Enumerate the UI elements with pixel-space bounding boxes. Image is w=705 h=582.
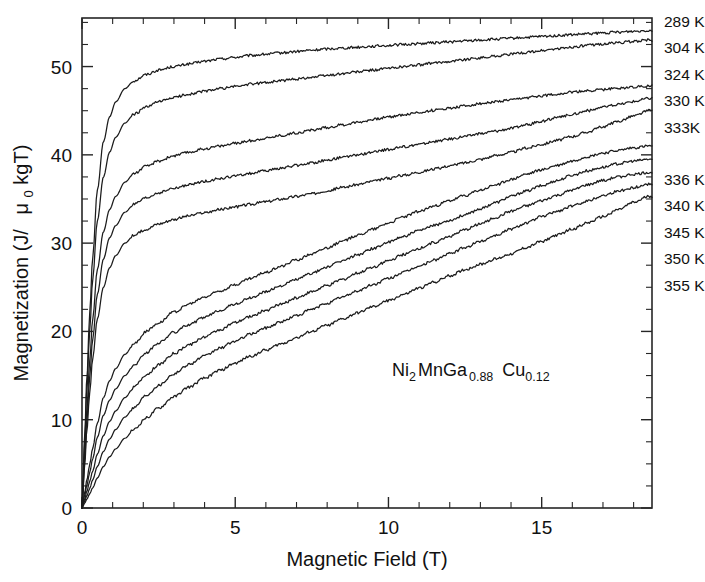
chart-svg: 051015 01020304050 289 K304 K324 K330 K3… [0, 0, 705, 582]
formula-element-ni: Ni [392, 360, 409, 380]
legend-label-345k: 345 K [664, 224, 705, 241]
y-axis-title-mu-subscript: 0 [21, 190, 36, 197]
y-tick-label: 30 [51, 233, 72, 254]
figure-background [0, 0, 705, 582]
y-tick-label: 40 [51, 145, 72, 166]
x-tick-label: 5 [230, 517, 241, 538]
y-axis-title-tail: kgT) [10, 145, 32, 185]
y-axis-title-text: Magnetization (J/ [10, 229, 32, 382]
legend-label-333k: 333K [664, 119, 701, 136]
formula-subscript-012: 0.12 [525, 370, 549, 384]
x-tick-label: 0 [77, 517, 88, 538]
legend-label-355k: 355 K [664, 277, 705, 294]
y-tick-label: 20 [51, 321, 72, 342]
legend-label-289k: 289 K [664, 13, 705, 30]
legend-label-340k: 340 K [664, 197, 705, 214]
legend-label-324k: 324 K [664, 66, 705, 83]
y-tick-label: 50 [51, 57, 72, 78]
legend-label-304k: 304 K [664, 39, 705, 56]
formula-subscript-088: 0.88 [469, 370, 493, 384]
y-tick-label: 10 [51, 410, 72, 431]
formula-subscript-2: 2 [409, 370, 416, 384]
formula-element-mnga: MnGa [418, 360, 468, 380]
x-axis-title: Magnetic Field (T) [286, 548, 447, 570]
x-tick-label: 10 [378, 517, 399, 538]
formula-element-cu: Cu [502, 360, 525, 380]
legend-label-350k: 350 K [664, 250, 705, 267]
magnetization-chart-figure: 051015 01020304050 289 K304 K324 K330 K3… [0, 0, 705, 582]
x-tick-label: 15 [531, 517, 552, 538]
y-axis-title-mu: μ [10, 203, 32, 215]
legend-label-336k: 336 K [664, 171, 705, 188]
legend-label-330k: 330 K [664, 92, 705, 109]
y-tick-label: 0 [61, 498, 72, 519]
